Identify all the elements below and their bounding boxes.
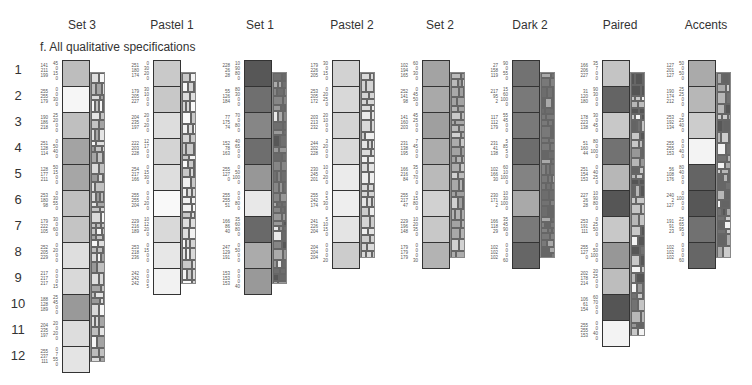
color-swatch bbox=[153, 60, 181, 87]
color-swatch bbox=[244, 216, 272, 243]
scheme-title: Set 1 bbox=[220, 18, 300, 32]
sample-map bbox=[181, 72, 196, 284]
color-swatch bbox=[153, 242, 181, 269]
color-swatch bbox=[244, 164, 272, 191]
color-swatch bbox=[62, 138, 90, 165]
sample-map bbox=[450, 72, 465, 258]
color-swatch bbox=[422, 86, 450, 113]
color-swatch bbox=[153, 268, 181, 295]
color-swatch bbox=[422, 216, 450, 243]
color-swatch bbox=[153, 164, 181, 191]
color-swatch bbox=[512, 86, 540, 113]
color-swatch bbox=[62, 86, 90, 113]
row-number: 9 bbox=[8, 270, 28, 285]
color-swatch bbox=[422, 190, 450, 217]
color-swatch bbox=[332, 164, 360, 191]
color-swatch bbox=[422, 242, 450, 269]
row-number: 5 bbox=[8, 166, 28, 181]
color-swatch bbox=[422, 112, 450, 139]
scheme-title: Set 3 bbox=[42, 18, 122, 32]
color-swatch bbox=[602, 112, 630, 139]
sample-map bbox=[630, 72, 645, 336]
color-swatch bbox=[422, 138, 450, 165]
color-swatch bbox=[512, 190, 540, 217]
color-swatch bbox=[422, 164, 450, 191]
row-number: 12 bbox=[8, 348, 28, 363]
color-swatch bbox=[602, 164, 630, 191]
color-swatch bbox=[688, 164, 716, 191]
color-swatch bbox=[332, 190, 360, 217]
row-number: 6 bbox=[8, 192, 28, 207]
scheme-title: Accents bbox=[666, 18, 746, 32]
section-title: f. All qualitative specifications bbox=[40, 40, 195, 54]
color-swatch bbox=[688, 216, 716, 243]
row-number: 7 bbox=[8, 218, 28, 233]
color-swatch bbox=[332, 86, 360, 113]
color-swatch bbox=[602, 86, 630, 113]
color-swatch bbox=[62, 320, 90, 347]
scheme-title: Set 2 bbox=[400, 18, 480, 32]
color-swatch bbox=[602, 294, 630, 321]
row-number: 8 bbox=[8, 244, 28, 259]
color-swatch bbox=[153, 138, 181, 165]
color-swatch bbox=[62, 190, 90, 217]
color-swatch bbox=[332, 60, 360, 87]
sample-map bbox=[272, 72, 287, 284]
row-number: 4 bbox=[8, 140, 28, 155]
color-swatch bbox=[332, 112, 360, 139]
color-swatch bbox=[62, 216, 90, 243]
color-swatch bbox=[62, 60, 90, 87]
color-swatch bbox=[688, 138, 716, 165]
color-swatch bbox=[62, 112, 90, 139]
color-swatch bbox=[244, 60, 272, 87]
color-swatch bbox=[332, 216, 360, 243]
color-swatch bbox=[62, 294, 90, 321]
sample-map bbox=[716, 72, 731, 258]
color-swatch bbox=[512, 164, 540, 191]
sample-map bbox=[540, 72, 555, 258]
color-swatch bbox=[244, 242, 272, 269]
sample-map bbox=[360, 72, 375, 258]
color-swatch bbox=[602, 242, 630, 269]
scheme-title: Pastel 1 bbox=[132, 18, 212, 32]
color-swatch bbox=[332, 242, 360, 269]
color-swatch bbox=[332, 138, 360, 165]
color-swatch bbox=[244, 190, 272, 217]
row-number: 10 bbox=[8, 296, 28, 311]
color-swatch bbox=[688, 86, 716, 113]
color-swatch bbox=[602, 216, 630, 243]
color-swatch bbox=[602, 190, 630, 217]
color-swatch bbox=[512, 216, 540, 243]
color-swatch bbox=[62, 164, 90, 191]
scheme-title: Dark 2 bbox=[490, 18, 570, 32]
color-swatch bbox=[244, 112, 272, 139]
color-swatch bbox=[153, 190, 181, 217]
color-swatch bbox=[512, 60, 540, 87]
color-swatch bbox=[244, 86, 272, 113]
color-swatch bbox=[602, 268, 630, 295]
color-swatch bbox=[602, 138, 630, 165]
color-swatch bbox=[512, 112, 540, 139]
color-swatch bbox=[244, 138, 272, 165]
color-swatch bbox=[422, 60, 450, 87]
color-swatch bbox=[512, 138, 540, 165]
color-swatch bbox=[153, 112, 181, 139]
row-number: 1 bbox=[8, 62, 28, 77]
color-swatch bbox=[602, 320, 630, 347]
color-swatch bbox=[688, 190, 716, 217]
row-number: 2 bbox=[8, 88, 28, 103]
sample-map bbox=[90, 72, 105, 362]
scheme-title: Pastel 2 bbox=[312, 18, 392, 32]
color-swatch bbox=[602, 60, 630, 87]
color-swatch bbox=[244, 268, 272, 295]
color-swatch bbox=[62, 268, 90, 295]
color-swatch bbox=[153, 216, 181, 243]
color-swatch bbox=[688, 112, 716, 139]
color-swatch bbox=[62, 242, 90, 269]
row-number: 3 bbox=[8, 114, 28, 129]
row-number: 11 bbox=[8, 322, 28, 337]
color-swatch bbox=[62, 346, 90, 373]
color-swatch bbox=[688, 60, 716, 87]
color-swatch bbox=[153, 86, 181, 113]
color-swatch bbox=[512, 242, 540, 269]
